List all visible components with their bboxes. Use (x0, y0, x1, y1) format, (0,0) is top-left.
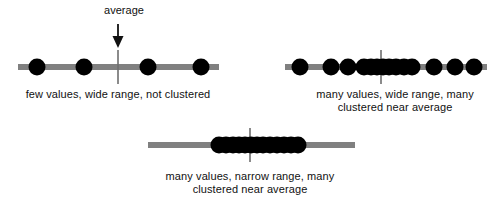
data-point (76, 59, 93, 76)
average-annotation-label: average (84, 4, 164, 17)
data-point (292, 59, 309, 76)
panel-a-caption: few values, wide range, not clustered (4, 88, 232, 101)
panel-b-caption: many values, wide range, many clustered … (292, 88, 498, 114)
data-point (404, 59, 421, 76)
data-point (140, 59, 157, 76)
data-point (193, 59, 210, 76)
panel-c-data-points (211, 137, 307, 154)
statistics-distribution-figure: average few values, wide range, not clus… (0, 0, 499, 205)
data-point (29, 59, 46, 76)
data-point (290, 137, 307, 154)
data-point (340, 59, 357, 76)
panel-c-caption: many values, narrow range, many clustere… (138, 170, 362, 196)
data-point (323, 59, 340, 76)
data-point (426, 59, 443, 76)
panel-a-group (18, 24, 219, 84)
panel-b-group (285, 50, 487, 84)
data-point (447, 59, 464, 76)
data-point (466, 59, 483, 76)
panel-c-group (148, 128, 355, 162)
average-arrow-icon (113, 24, 124, 48)
